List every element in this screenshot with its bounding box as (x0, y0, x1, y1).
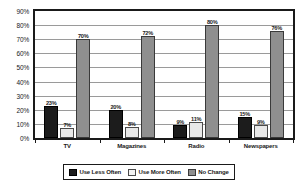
y-axis-tick-label: 10% (17, 120, 29, 127)
legend-swatch-icon (128, 169, 136, 176)
legend-swatch-icon (69, 169, 77, 176)
legend-label: Use More Often (139, 169, 181, 175)
legend-label: Use Less Often (80, 169, 122, 175)
y-axis: 0%10%20%30%40%50%60%70%80%90% (0, 9, 31, 140)
bar: 8% (125, 127, 139, 138)
bar-value-label: 15% (239, 111, 250, 117)
bar: 20% (109, 110, 123, 138)
bar-group-newspapers: 15%9%76% (238, 11, 284, 138)
bar-value-label: 70% (78, 33, 89, 39)
x-axis-category-label: Radio (188, 143, 204, 149)
bar-group-radio: 9%11%80% (173, 11, 219, 138)
bar: 70% (76, 39, 90, 138)
x-axis-tick (293, 140, 294, 143)
bar-value-label: 8% (128, 121, 136, 127)
bar-value-label: 11% (191, 116, 201, 122)
chart-legend: Use Less OftenUse More OftenNo Change (63, 164, 235, 180)
bar: 9% (173, 125, 187, 138)
bar: 15% (238, 117, 252, 138)
legend-item: Use Less Often (69, 169, 121, 176)
bar: 9% (254, 125, 268, 138)
bar: 7% (60, 128, 74, 138)
x-axis-tick (35, 140, 36, 143)
bar-value-label: 9% (176, 119, 184, 125)
bar-value-label: 20% (110, 104, 121, 110)
x-axis-category-label: Magazines (117, 143, 146, 149)
x-axis-tick (100, 140, 101, 143)
bar-group-magazines: 20%8%72% (109, 11, 155, 138)
legend-label: No Change (198, 169, 228, 175)
bar-value-label: 80% (207, 19, 218, 25)
x-axis-tick (229, 140, 230, 143)
x-axis-category-label: Newspapers (244, 143, 278, 149)
y-axis-tick-label: 0% (20, 135, 29, 142)
bar-group-tv: 23%7%70% (44, 11, 90, 138)
bars-layer: 23%7%70%20%8%72%9%11%80%15%9%76% (35, 11, 293, 138)
y-axis-tick-label: 20% (17, 106, 29, 113)
legend-item: Use More Often (128, 169, 181, 176)
bar-value-label: 76% (271, 25, 282, 31)
bar: 72% (141, 36, 155, 138)
bar-value-label: 9% (257, 119, 265, 125)
bar-value-label: 72% (142, 30, 153, 36)
y-axis-tick-label: 50% (17, 64, 29, 71)
y-axis-tick-label: 60% (17, 50, 29, 57)
bar: 76% (270, 31, 284, 138)
x-axis-category-label: TV (64, 143, 71, 149)
y-axis-tick-label: 40% (17, 78, 29, 85)
bar-chart: 0%10%20%30%40%50%60%70%80%90% 23%7%70%20… (0, 0, 305, 195)
legend-swatch-icon (188, 169, 196, 176)
bar-value-label: 7% (63, 122, 71, 128)
legend-item: No Change (188, 169, 229, 176)
y-axis-tick-label: 30% (17, 92, 29, 99)
x-axis-tick (164, 140, 165, 143)
bar: 11% (189, 122, 203, 138)
bar: 80% (205, 25, 219, 138)
bar: 23% (44, 106, 58, 138)
bar-value-label: 23% (46, 100, 57, 106)
x-axis: TVMagazinesRadioNewspapers (33, 140, 295, 154)
y-axis-tick-label: 70% (17, 36, 29, 43)
y-axis-tick-label: 90% (17, 8, 29, 15)
y-axis-tick-label: 80% (17, 22, 29, 29)
